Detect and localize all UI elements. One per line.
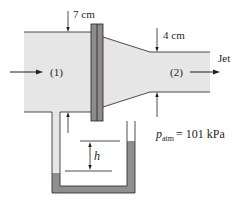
- h-arrowhead-bottom: [88, 165, 91, 170]
- arrowhead-4cm-bottom: [155, 92, 158, 97]
- section-2-label: (2): [170, 66, 183, 79]
- arrowhead-7cm-bottom: [66, 112, 69, 117]
- outlet-diameter-label: 4 cm: [163, 29, 185, 41]
- atmospheric-pressure-label: patm= 101 kPa: [155, 127, 225, 143]
- manometer-height-label: h: [94, 149, 100, 163]
- pressure-symbol: p: [155, 127, 162, 141]
- manometer-left-leg-air: [52, 112, 60, 173]
- arrowhead-7cm-top: [66, 27, 69, 32]
- h-arrowhead-top: [88, 142, 91, 147]
- nozzle-manometer-diagram: 7 cm 4 cm (1) (2) Jet h patm= 101 kPa: [0, 0, 238, 200]
- outlet-flow-arrowhead: [213, 70, 220, 75]
- section-1-label: (1): [50, 66, 63, 79]
- inlet-diameter-label: 7 cm: [73, 8, 95, 20]
- arrowhead-4cm-top: [155, 47, 158, 52]
- pressure-value: = 101 kPa: [176, 127, 225, 141]
- jet-label: Jet: [218, 52, 230, 64]
- pressure-subscript: atm: [162, 134, 175, 143]
